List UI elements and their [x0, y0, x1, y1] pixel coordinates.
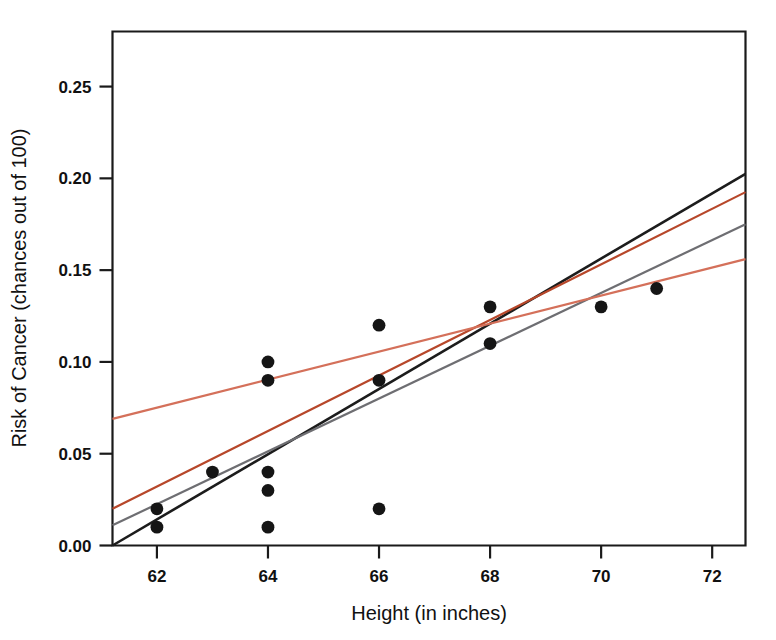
x-tick-label: 66 [370, 567, 389, 586]
y-tick-label: 0.25 [58, 78, 91, 97]
y-axis-ticks: 0.000.050.100.150.200.25 [58, 78, 112, 556]
data-point [206, 466, 219, 479]
x-tick-label: 62 [147, 567, 166, 586]
data-point [373, 374, 386, 387]
x-tick-label: 70 [592, 567, 611, 586]
x-tick-label: 64 [259, 567, 278, 586]
data-point [484, 337, 497, 350]
data-point [262, 356, 275, 369]
x-tick-label: 72 [703, 567, 722, 586]
regression-line-light-salmon-line [113, 259, 746, 419]
data-point [262, 521, 275, 534]
data-point [484, 300, 497, 313]
data-point [262, 484, 275, 497]
data-point [151, 521, 164, 534]
regression-scatter-chart: 0.000.050.100.150.200.25 626466687072 He… [0, 0, 776, 640]
data-point [151, 502, 164, 515]
regression-line-steep-black-line [113, 174, 746, 546]
data-point [373, 319, 386, 332]
y-axis-title: Risk of Cancer (chances out of 100) [8, 128, 30, 447]
x-axis-title: Height (in inches) [351, 602, 507, 624]
regression-lines [113, 174, 746, 546]
data-points [151, 282, 664, 533]
y-tick-label: 0.00 [58, 537, 91, 556]
data-point [373, 502, 386, 515]
data-point [595, 300, 608, 313]
y-tick-label: 0.10 [58, 353, 91, 372]
x-axis-ticks: 626466687072 [147, 546, 721, 586]
x-tick-label: 68 [481, 567, 500, 586]
data-point [262, 466, 275, 479]
regression-line-dark-orange-line [113, 192, 746, 509]
y-tick-label: 0.15 [58, 261, 91, 280]
data-point [262, 374, 275, 387]
y-tick-label: 0.20 [58, 169, 91, 188]
y-tick-label: 0.05 [58, 445, 91, 464]
regression-line-gray-line [113, 224, 746, 525]
data-point [650, 282, 663, 295]
scatter-plot-figure: 0.000.050.100.150.200.25 626466687072 He… [0, 0, 776, 640]
